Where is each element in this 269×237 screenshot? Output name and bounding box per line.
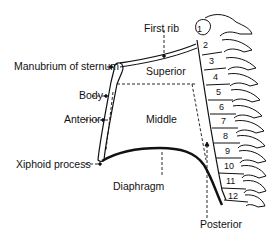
vertebra-1: 1 bbox=[197, 24, 202, 34]
mediastinum-diagram: First rib Manubrium of sternum Superior … bbox=[0, 0, 269, 237]
label-middle: Middle bbox=[146, 113, 177, 125]
vertebra-4: 4 bbox=[213, 72, 218, 82]
vertebra-9: 9 bbox=[225, 146, 230, 156]
label-first-rib: First rib bbox=[144, 22, 179, 34]
label-xiphoid: Xiphoid process bbox=[16, 158, 91, 170]
diaphragm-line bbox=[102, 148, 222, 205]
label-superior: Superior bbox=[146, 65, 186, 77]
vertebra-3: 3 bbox=[209, 56, 214, 66]
vertebra-12: 12 bbox=[228, 191, 238, 201]
label-body: Body bbox=[79, 89, 103, 101]
label-manubrium: Manubrium of sternum bbox=[14, 60, 119, 72]
vertebra-10: 10 bbox=[224, 161, 234, 171]
vertebra-2: 2 bbox=[203, 40, 208, 50]
vertebra-11: 11 bbox=[226, 176, 235, 186]
vertebra-6: 6 bbox=[219, 102, 224, 112]
vertebra-8: 8 bbox=[223, 131, 228, 141]
label-posterior: Posterior bbox=[200, 218, 242, 230]
label-diaphragm: Diaphragm bbox=[113, 180, 164, 192]
vertebra-5: 5 bbox=[216, 87, 221, 97]
vertebra-7: 7 bbox=[221, 116, 226, 126]
diagram-drawing bbox=[0, 0, 269, 237]
label-anterior: Anterior bbox=[64, 113, 101, 125]
